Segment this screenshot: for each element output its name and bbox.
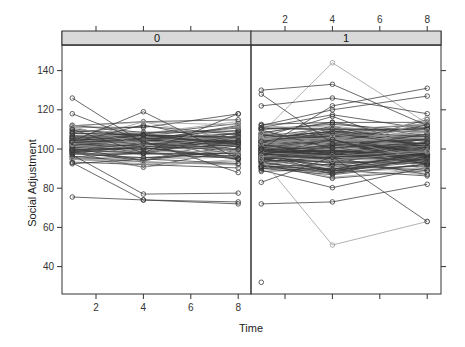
y-axis-title: Social Adjustment	[26, 139, 38, 226]
y-tick-label: 140	[37, 65, 54, 76]
chart-svg: 24682468406080100120140 Time Social Adju…	[0, 0, 465, 347]
top-mask	[0, 0, 465, 31]
y-tick-label: 80	[43, 183, 55, 194]
highlighted-trajectory	[261, 84, 427, 125]
x-tick-label-top: 6	[377, 14, 383, 25]
y-tick-label: 100	[37, 144, 54, 155]
strip-label-0: 0	[154, 32, 160, 44]
data-point	[70, 96, 75, 101]
y-tick-label: 40	[43, 261, 55, 272]
highlighted-trajectory	[261, 184, 427, 204]
trellis-chart: 24682468406080100120140 Time Social Adju…	[0, 0, 465, 347]
x-tick-label-top: 4	[330, 14, 336, 25]
x-axis-title: Time	[239, 322, 263, 334]
panel-frame-0	[62, 45, 251, 294]
x-tick-label-top: 8	[424, 14, 430, 25]
x-tick-label: 8	[235, 302, 241, 313]
data-point	[259, 280, 264, 285]
highlighted-trajectory	[72, 197, 238, 202]
strip-label-1: 1	[343, 32, 349, 44]
x-tick-label-top: 2	[282, 14, 288, 25]
y-tick-label: 60	[43, 222, 55, 233]
y-tick-label: 120	[37, 104, 54, 115]
x-tick-label: 2	[93, 302, 99, 313]
x-tick-label: 6	[188, 302, 194, 313]
subject-trajectory	[72, 162, 238, 168]
data-layer	[70, 60, 430, 284]
x-tick-label: 4	[141, 302, 147, 313]
